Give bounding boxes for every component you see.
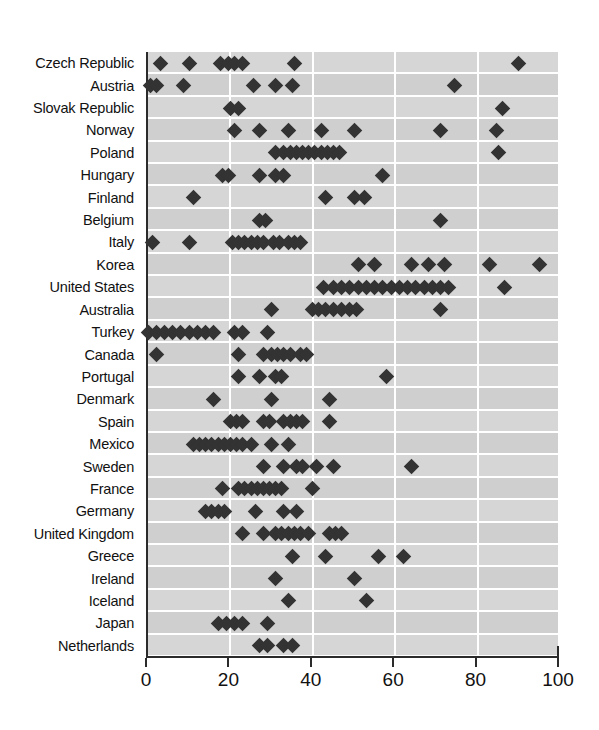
x-tick-label-40: 40 (300, 670, 321, 689)
category-row-band (148, 411, 558, 433)
category-row-band (148, 52, 558, 74)
gridline-80 (477, 52, 479, 657)
category-label-france: France (0, 482, 134, 497)
category-label-austria: Austria (0, 79, 134, 94)
category-row-band (148, 231, 558, 253)
category-label-belgium: Belgium (0, 213, 134, 228)
axis-tick-right-end (557, 646, 559, 658)
category-row-band (148, 545, 558, 567)
category-label-norway: Norway (0, 123, 134, 138)
category-row-band (148, 455, 558, 477)
category-row-band (148, 74, 558, 96)
x-tick-label-60: 60 (383, 670, 404, 689)
category-label-finland: Finland (0, 191, 134, 206)
plot-area (146, 52, 558, 657)
category-label-iceland: Iceland (0, 594, 134, 609)
category-label-hungary: Hungary (0, 168, 134, 183)
x-tick-label-100: 100 (542, 670, 574, 689)
category-label-spain: Spain (0, 415, 134, 430)
category-label-czech-republic: Czech Republic (0, 56, 134, 71)
category-label-germany: Germany (0, 504, 134, 519)
category-label-denmark: Denmark (0, 392, 134, 407)
category-label-netherlands: Netherlands (0, 639, 134, 654)
category-row-band (148, 343, 558, 365)
scatter-chart: Czech RepublicAustriaSlovak RepublicNorw… (0, 0, 599, 730)
x-tick-20 (227, 658, 229, 667)
gridline-60 (394, 52, 396, 657)
category-label-portugal: Portugal (0, 370, 134, 385)
x-tick-100 (557, 658, 559, 667)
x-tick-label-20: 20 (218, 670, 239, 689)
category-label-italy: Italy (0, 235, 134, 250)
x-tick-40 (310, 658, 312, 667)
category-label-korea: Korea (0, 258, 134, 273)
category-row-band (148, 612, 558, 634)
category-row-band (148, 164, 558, 186)
x-tick-60 (392, 658, 394, 667)
category-label-united-states: United States (0, 280, 134, 295)
category-label-greece: Greece (0, 549, 134, 564)
x-tick-label-0: 0 (141, 670, 152, 689)
x-tick-80 (475, 658, 477, 667)
category-axis: Czech RepublicAustriaSlovak RepublicNorw… (0, 52, 142, 657)
x-tick-0 (145, 658, 147, 667)
category-label-mexico: Mexico (0, 437, 134, 452)
category-label-united-kingdom: United Kingdom (0, 527, 134, 542)
category-label-turkey: Turkey (0, 325, 134, 340)
category-label-ireland: Ireland (0, 572, 134, 587)
category-row-band (148, 478, 558, 500)
category-label-japan: Japan (0, 616, 134, 631)
category-label-australia: Australia (0, 303, 134, 318)
category-row-band (148, 635, 558, 657)
x-tick-label-80: 80 (465, 670, 486, 689)
x-axis: 020406080100 (146, 658, 559, 698)
category-row-band (148, 209, 558, 231)
category-label-poland: Poland (0, 146, 134, 161)
gridline-100 (559, 52, 561, 657)
category-label-canada: Canada (0, 348, 134, 363)
category-row-band (148, 590, 558, 612)
category-row-band (148, 523, 558, 545)
category-row-band (148, 366, 558, 388)
category-label-slovak-republic: Slovak Republic (0, 101, 134, 116)
category-label-sweden: Sweden (0, 460, 134, 475)
